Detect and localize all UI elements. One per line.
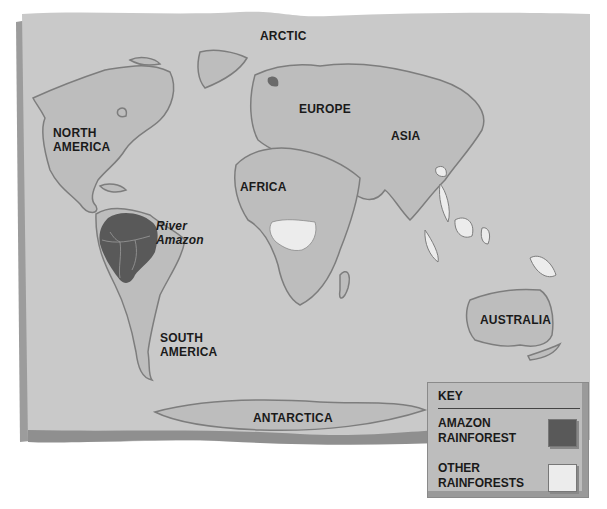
label-arctic: ARCTIC xyxy=(260,29,307,43)
label-australia: AUSTRALIA xyxy=(480,313,551,327)
map-key: KEY AMAZON RAINFOREST OTHER RAINFORESTS xyxy=(427,382,589,498)
label-antarctica: ANTARCTICA xyxy=(253,411,333,425)
key-title: KEY xyxy=(438,389,463,403)
key-label-other-rainforests: OTHER RAINFORESTS xyxy=(438,461,524,491)
key-divider xyxy=(438,408,580,409)
key-swatch-amazon-rainforest xyxy=(548,419,577,447)
label-africa: AFRICA xyxy=(240,180,287,194)
key-label-amazon-rainforest: AMAZON RAINFOREST xyxy=(438,416,516,446)
label-north-america: NORTH AMERICA xyxy=(53,126,110,154)
key-swatch-other-rainforests xyxy=(548,464,577,492)
label-river-amazon: River Amazon xyxy=(156,219,204,247)
label-asia: ASIA xyxy=(391,129,420,143)
label-europe: EUROPE xyxy=(299,102,351,116)
label-south-america: SOUTH AMERICA xyxy=(160,331,217,359)
